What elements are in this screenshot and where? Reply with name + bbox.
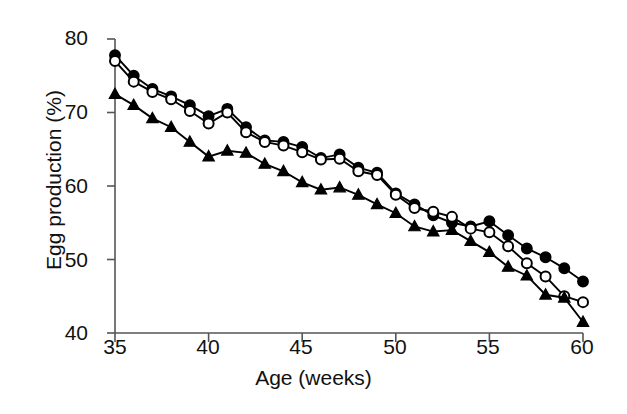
marker-filled-triangle	[334, 181, 345, 191]
marker-filled-triangle	[222, 145, 233, 155]
plot-area	[0, 0, 627, 414]
marker-open-circle	[278, 141, 288, 151]
marker-filled-circle	[559, 263, 569, 273]
filled-triangle-series	[109, 88, 588, 326]
marker-open-circle	[297, 147, 307, 157]
marker-open-circle	[541, 271, 551, 281]
marker-open-circle	[372, 170, 382, 180]
marker-filled-triangle	[259, 158, 270, 168]
egg-production-chart: Egg production (%) Age (weeks) 80 70 60 …	[0, 0, 627, 414]
marker-open-circle	[241, 127, 251, 137]
marker-filled-triangle	[465, 235, 476, 245]
marker-filled-triangle	[147, 112, 158, 122]
filled-circle-series	[110, 50, 588, 287]
marker-filled-circle	[503, 230, 513, 240]
marker-open-circle	[391, 190, 401, 200]
marker-open-circle	[204, 119, 214, 129]
marker-filled-circle	[578, 276, 588, 286]
marker-filled-triangle	[184, 136, 195, 146]
marker-open-circle	[260, 137, 270, 147]
marker-filled-triangle	[297, 176, 308, 186]
marker-open-circle	[578, 297, 588, 307]
marker-open-circle	[129, 77, 139, 87]
marker-open-circle	[166, 94, 176, 104]
marker-open-circle	[335, 154, 345, 164]
marker-open-circle	[522, 258, 532, 268]
marker-filled-triangle	[484, 246, 495, 256]
marker-filled-triangle	[371, 198, 382, 208]
marker-open-circle	[222, 108, 232, 118]
marker-open-circle	[447, 212, 457, 222]
marker-filled-circle	[484, 216, 494, 226]
marker-filled-triangle	[409, 220, 420, 230]
marker-open-circle	[428, 207, 438, 217]
marker-open-circle	[110, 56, 120, 66]
marker-filled-circle	[522, 243, 532, 253]
marker-open-circle	[503, 241, 513, 251]
marker-filled-triangle	[502, 261, 513, 271]
data-series-layer	[109, 50, 588, 326]
marker-open-circle	[466, 224, 476, 234]
marker-open-circle	[484, 227, 494, 237]
marker-open-circle	[353, 166, 363, 176]
marker-filled-triangle	[109, 88, 120, 98]
marker-filled-triangle	[128, 99, 139, 109]
marker-filled-circle	[540, 252, 550, 262]
open-circle-series	[110, 56, 588, 307]
marker-open-circle	[185, 106, 195, 116]
marker-open-circle	[147, 87, 157, 97]
marker-open-circle	[410, 203, 420, 213]
marker-open-circle	[316, 155, 326, 165]
